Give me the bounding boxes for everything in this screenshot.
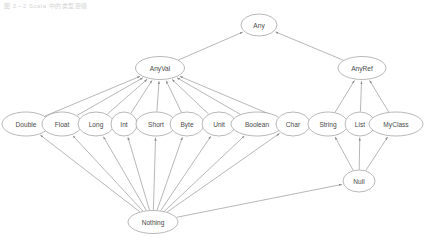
node-label-anyref: AnyRef — [351, 65, 373, 73]
node-label-long: Long — [89, 121, 104, 129]
edge-anyval-to-any — [178, 32, 242, 60]
node-label-int: Int — [120, 121, 127, 128]
node-anyval[interactable]: AnyVal — [136, 57, 185, 80]
edge-nothing-to-null — [176, 184, 341, 217]
node-myclass[interactable]: MyClass — [369, 112, 423, 136]
node-char[interactable]: Char — [276, 112, 310, 136]
node-int[interactable]: Int — [111, 112, 137, 136]
edge-short-to-anyval — [157, 81, 159, 111]
node-null[interactable]: Null — [343, 170, 375, 192]
node-label-short: Short — [148, 121, 164, 128]
node-label-string: String — [319, 121, 337, 129]
node-label-null: Null — [353, 178, 365, 185]
edge-nothing-to-long — [103, 137, 146, 211]
node-label-any: Any — [253, 22, 265, 30]
node-long[interactable]: Long — [78, 112, 114, 136]
edge-unit-to-anyval — [172, 80, 208, 114]
node-string[interactable]: String — [308, 112, 348, 136]
edge-anyref-to-any — [276, 32, 344, 60]
node-byte[interactable]: Byte — [170, 112, 204, 136]
edge-double-to-anyval — [45, 76, 140, 116]
node-float[interactable]: Float — [42, 112, 82, 136]
edge-myclass-to-anyref — [370, 81, 389, 112]
edge-int-to-anyval — [131, 81, 152, 114]
node-layer: AnyAnyValAnyRefDoubleFloatLongIntShortBy… — [2, 14, 423, 234]
node-anyref[interactable]: AnyRef — [338, 57, 386, 80]
edge-null-to-list — [359, 138, 360, 170]
node-label-nothing: Nothing — [142, 219, 165, 227]
node-any[interactable]: Any — [241, 14, 277, 36]
node-label-unit: Unit — [213, 121, 225, 128]
node-nothing[interactable]: Nothing — [128, 211, 178, 234]
node-boolean[interactable]: Boolean — [231, 112, 283, 136]
edge-nothing-to-float — [73, 136, 143, 211]
node-label-myclass: MyClass — [383, 121, 409, 129]
edge-list-to-anyref — [360, 81, 361, 111]
edge-nothing-to-int — [128, 137, 150, 210]
edge-char-to-anyval — [180, 76, 278, 117]
node-label-char: Char — [286, 121, 301, 128]
edge-nothing-to-byte — [157, 137, 182, 210]
edge-null-to-string — [335, 137, 353, 170]
edge-boolean-to-anyval — [177, 78, 240, 115]
edge-nothing-to-boolean — [164, 136, 244, 211]
node-label-anyval: AnyVal — [150, 65, 171, 73]
edge-nothing-to-short — [153, 138, 155, 210]
node-label-byte: Byte — [180, 121, 194, 129]
node-label-boolean: Boolean — [245, 121, 270, 128]
edge-string-to-anyref — [335, 81, 354, 113]
edge-null-to-myclass — [366, 137, 388, 170]
node-label-list: List — [355, 121, 365, 128]
node-label-float: Float — [55, 121, 70, 128]
type-hierarchy-diagram: AnyAnyValAnyRefDoubleFloatLongIntShortBy… — [0, 0, 426, 244]
node-label-double: Double — [16, 121, 37, 128]
edge-long-to-anyval — [107, 79, 147, 114]
edge-byte-to-anyval — [166, 81, 181, 112]
